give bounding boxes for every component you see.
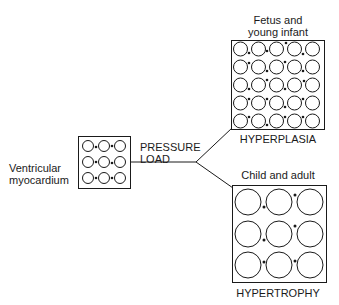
ventricular-label-line1: Ventricular [9,162,61,174]
load-label: LOAD [140,153,170,165]
hyperplasia-cells-grid [234,42,320,128]
ventricular-myocardium-box [79,137,131,189]
pressure-label: PRESSURE [140,141,201,153]
child-adult-label: Child and adult [226,169,330,181]
ventricular-label-line2: myocardium [9,174,69,186]
fetus-label-line1: Fetus and [231,14,325,26]
hypertrophy-cells-grid [235,189,323,278]
hypertrophy-caption: HYPERTROPHY [226,287,330,299]
small-cells-grid [83,141,126,184]
hyperplasia-caption: HYPERPLASIA [226,133,330,145]
fetus-label-line2: young infant [231,26,325,38]
hypertrophy-box [233,186,327,283]
